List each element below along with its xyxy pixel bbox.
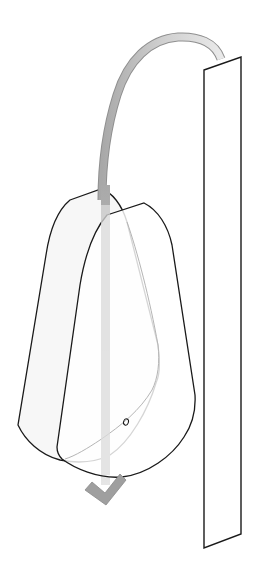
- wall-panel: [204, 57, 241, 548]
- assembly-diagram: [0, 0, 258, 570]
